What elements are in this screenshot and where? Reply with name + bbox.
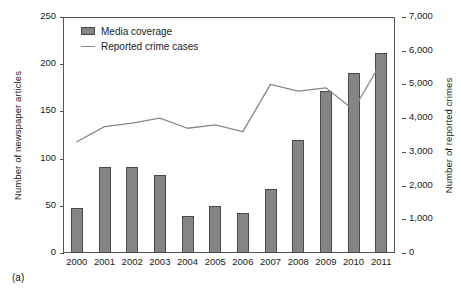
x-axis-tick-label: 2010: [340, 256, 368, 267]
y-axis-left-tick-label: 250: [16, 10, 56, 21]
legend-item-media-coverage: Media coverage: [81, 24, 198, 38]
x-axis-tick-labels: 2000200120022003200420052006200720082009…: [63, 256, 395, 267]
bar-swatch-icon: [81, 27, 95, 35]
y-axis-right-tick-mark: [402, 186, 406, 187]
y-axis-right-tick-mark: [402, 152, 406, 153]
chart-figure: Number of newspaper articles Number of r…: [0, 0, 461, 293]
legend-item-reported-crime-cases: Reported crime cases: [81, 39, 198, 53]
y-axis-right-tick-mark: [402, 84, 406, 85]
chart-legend: Media coverage Reported crime cases: [81, 24, 198, 54]
y-axis-left-ticks: 050100150200250: [16, 0, 56, 293]
x-axis-tick-label: 2001: [91, 256, 119, 267]
x-axis-tick-label: 2004: [174, 256, 202, 267]
x-axis-tick-label: 2005: [201, 256, 229, 267]
x-axis-tick-label: 2007: [257, 256, 285, 267]
x-axis-tick-label: 2002: [118, 256, 146, 267]
y-axis-right-tick-mark: [402, 118, 406, 119]
x-axis-tick-label: 2011: [367, 256, 395, 267]
y-axis-right-tick-label: 3,000: [409, 145, 453, 156]
x-axis-tick-label: 2006: [229, 256, 257, 267]
y-axis-right-tick-label: 2,000: [409, 179, 453, 190]
y-axis-right-tick-mark: [402, 219, 406, 220]
x-axis-tick-label: 2008: [284, 256, 312, 267]
y-axis-right-tick-mark: [402, 51, 406, 52]
y-axis-left-tick-label: 150: [16, 104, 56, 115]
x-axis-tick-label: 2000: [63, 256, 91, 267]
y-axis-left-tick-label: 50: [16, 199, 56, 210]
figure-caption: (a): [12, 272, 24, 283]
x-axis-tick-label: 2003: [146, 256, 174, 267]
y-axis-right-tick-label: 6,000: [409, 44, 453, 55]
y-axis-right-tick-label: 4,000: [409, 111, 453, 122]
y-axis-left-tick-label: 0: [16, 246, 56, 257]
line-swatch-icon: [81, 42, 95, 50]
y-axis-right-tick-mark: [402, 17, 406, 18]
legend-label-reported-crime-cases: Reported crime cases: [101, 41, 198, 52]
crime-line-path: [77, 63, 381, 142]
y-axis-left-tick-mark: [60, 253, 64, 254]
legend-label-media-coverage: Media coverage: [101, 26, 172, 37]
y-axis-left-tick-label: 100: [16, 152, 56, 163]
y-axis-right-tick-label: 7,000: [409, 10, 453, 21]
y-axis-right-tick-label: 0: [409, 246, 453, 257]
y-axis-right-tick-mark: [402, 253, 406, 254]
x-axis-tick-label: 2009: [312, 256, 340, 267]
y-axis-right-ticks: 01,0002,0003,0004,0005,0006,0007,000: [402, 0, 448, 293]
y-axis-right-tick-label: 1,000: [409, 212, 453, 223]
y-axis-right-tick-label: 5,000: [409, 77, 453, 88]
y-axis-left-tick-label: 200: [16, 57, 56, 68]
